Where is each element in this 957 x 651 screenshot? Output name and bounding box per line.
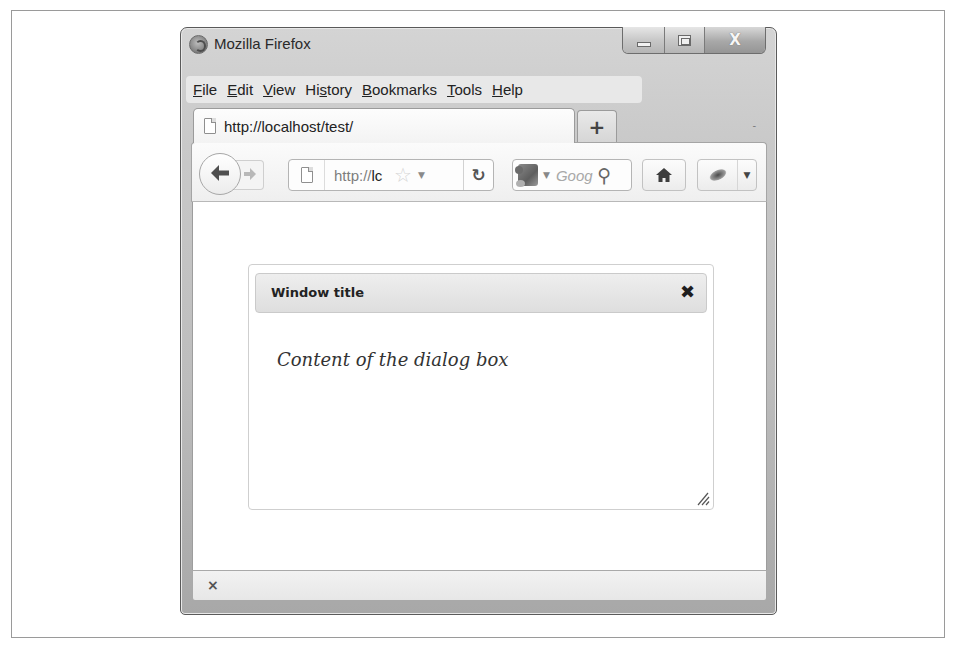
plus-icon: + (589, 115, 606, 139)
window-controls: X (622, 27, 766, 54)
search-engine-dropdown[interactable]: ▼ (543, 170, 550, 180)
resize-handle-icon[interactable] (696, 492, 710, 506)
minimize-icon (637, 42, 651, 47)
accesskey: B (362, 81, 372, 98)
browser-window: Mozilla Firefox X FileEditViewHistoryBoo… (180, 27, 777, 615)
dialog-box: Window title ✖ Content of the dialog box (248, 264, 714, 510)
menu-bar: FileEditViewHistoryBookmarksToolsHelp (186, 76, 642, 103)
dialog-content: Content of the dialog box (277, 349, 508, 370)
page-icon (301, 167, 313, 183)
addon-icon (707, 167, 728, 184)
dialog-titlebar[interactable]: Window title ✖ (255, 273, 707, 313)
addon-dropdown[interactable]: ▼ (738, 170, 756, 180)
window-titlebar: Mozilla Firefox X (181, 28, 776, 73)
menu-item-tools[interactable]: Tools (442, 81, 487, 98)
reload-icon: ↻ (471, 165, 485, 185)
menu-item-view[interactable]: View (258, 81, 300, 98)
search-magnifier-icon[interactable]: ⚲ (597, 164, 611, 186)
url-scheme: http:// (334, 167, 372, 184)
minimize-button[interactable] (623, 27, 665, 53)
page-viewport: Window title ✖ Content of the dialog box (192, 202, 767, 570)
page-icon (204, 118, 216, 134)
addon-bar: × (192, 570, 767, 601)
window-title: Mozilla Firefox (214, 35, 311, 52)
reload-button[interactable]: ↻ (463, 160, 493, 190)
back-arrow-icon (210, 160, 230, 188)
url-bar[interactable]: http://lc ☆ ▼ ↻ (288, 159, 494, 191)
search-engine-icon[interactable] (518, 164, 538, 186)
back-button[interactable] (199, 153, 241, 195)
close-icon: X (729, 31, 741, 49)
accesskey: s (319, 81, 327, 98)
menu-item-bookmarks[interactable]: Bookmarks (357, 81, 442, 98)
firefox-logo-icon (189, 35, 208, 54)
new-tab-button[interactable]: + (577, 110, 617, 142)
url-host: lc (372, 167, 383, 184)
url-input[interactable]: http://lc (334, 167, 392, 184)
navigation-toolbar: http://lc ☆ ▼ ↻ ▼ Goog ⚲ ▼ (191, 142, 767, 202)
url-history-dropdown[interactable]: ▼ (418, 170, 425, 180)
accesskey: H (492, 81, 503, 98)
maximize-button[interactable] (665, 27, 705, 53)
search-bar[interactable]: ▼ Goog ⚲ (512, 159, 632, 191)
menu-item-edit[interactable]: Edit (222, 81, 258, 98)
list-all-tabs-button[interactable]: - (752, 120, 756, 131)
dialog-title: Window title (271, 285, 364, 300)
accesskey: V (263, 81, 273, 98)
dialog-close-icon[interactable]: ✖ (680, 281, 695, 302)
accesskey: T (447, 81, 455, 98)
accesskey: F (193, 81, 202, 98)
menu-item-help[interactable]: Help (487, 81, 528, 98)
addon-button[interactable]: ▼ (697, 159, 757, 191)
menu-item-file[interactable]: File (188, 81, 222, 98)
forward-arrow-icon (243, 165, 257, 185)
home-button[interactable] (642, 159, 686, 191)
close-addon-bar-icon[interactable]: × (207, 577, 219, 593)
search-input[interactable]: Goog (556, 167, 596, 184)
tab-active[interactable]: http://localhost/test/ (193, 108, 575, 143)
maximize-icon (678, 35, 691, 46)
menu-item-history[interactable]: History (300, 81, 357, 98)
home-icon (655, 167, 673, 183)
tab-title: http://localhost/test/ (224, 118, 353, 135)
accesskey: E (227, 81, 237, 98)
bookmark-star-icon[interactable]: ☆ (394, 165, 412, 185)
site-identity-button[interactable] (289, 160, 325, 190)
close-window-button[interactable]: X (705, 27, 765, 53)
